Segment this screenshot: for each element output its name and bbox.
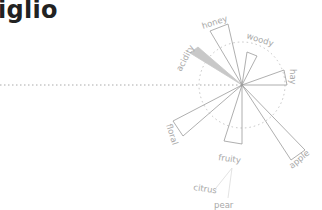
label-apple: apple: [287, 148, 312, 171]
wedge-floral: [173, 85, 242, 136]
wedge-apple: [242, 85, 305, 160]
label-citrus: citrus: [193, 182, 218, 195]
radial-chart: honey woody hay acidity floral fruity ap…: [0, 0, 322, 210]
label-acidity: acidity: [174, 43, 196, 73]
label-honey: honey: [201, 13, 229, 31]
wedge-honey: [210, 24, 242, 85]
label-floral: floral: [164, 123, 180, 147]
label-pear: pear: [214, 200, 234, 210]
wedge-fruity: [224, 85, 242, 144]
label-fruity: fruity: [218, 152, 242, 165]
label-hay: hay: [288, 69, 298, 85]
